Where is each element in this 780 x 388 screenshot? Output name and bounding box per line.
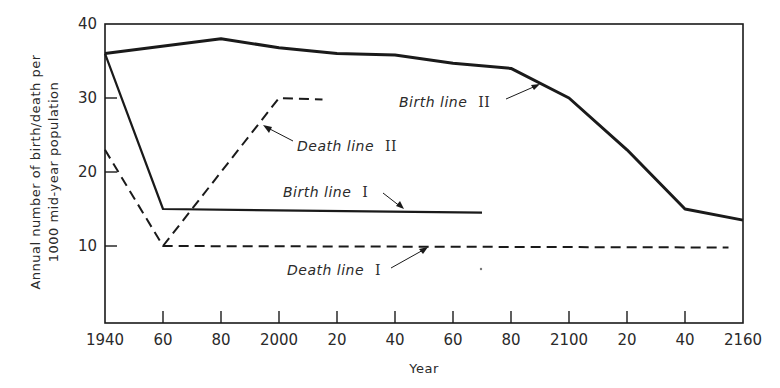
y-axis-title-line-2: 1000 mid-year population xyxy=(46,82,61,263)
x-tick-label: 20 xyxy=(617,331,636,349)
arrowhead-icon xyxy=(263,125,272,133)
y-axis-ticks: 10203040 xyxy=(78,15,117,255)
y-tick-label: 30 xyxy=(78,89,97,107)
x-tick-label: 60 xyxy=(153,331,172,349)
scan-speck xyxy=(480,268,482,270)
annotation-death-line-1: Death line I xyxy=(287,247,428,278)
series-death-line-ii xyxy=(163,98,323,246)
arrowhead-icon xyxy=(419,247,428,254)
y-tick-label: 10 xyxy=(78,237,97,255)
annotation-death-line-1-text: Death line I xyxy=(287,262,381,278)
arrowhead-icon xyxy=(396,201,404,209)
x-axis-title: Year xyxy=(408,361,439,376)
line-chart: 10203040 1940608020002040608021002040216… xyxy=(0,0,780,388)
series-death-line-i xyxy=(105,150,729,248)
annotation-birth-line-2: Birth line II xyxy=(399,84,540,110)
plot-frame xyxy=(105,24,743,323)
x-tick-label: 80 xyxy=(211,331,230,349)
x-tick-label: 80 xyxy=(501,331,520,349)
x-tick-label: 1940 xyxy=(86,331,124,349)
annotation-death-line-2-text: Death line II xyxy=(297,138,397,154)
arrow-line xyxy=(391,249,425,268)
series-lines xyxy=(105,39,743,248)
annotation-death-line-2: Death line II xyxy=(263,125,397,154)
y-tick-label: 40 xyxy=(78,15,97,33)
series-birth-line-ii xyxy=(105,39,743,220)
x-tick-label: 2100 xyxy=(550,331,588,349)
x-tick-label: 2160 xyxy=(724,331,762,349)
annotation-birth-line-1-text: Birth line I xyxy=(283,184,368,200)
y-axis-title-line-1: Annual number of birth/death per xyxy=(28,54,43,289)
x-tick-label: 40 xyxy=(385,331,404,349)
arrowhead-icon xyxy=(531,84,540,90)
x-tick-label: 20 xyxy=(327,331,346,349)
y-tick-label: 20 xyxy=(78,163,97,181)
x-tick-label: 60 xyxy=(443,331,462,349)
annotation-birth-line-2-text: Birth line II xyxy=(399,94,490,110)
x-tick-label: 2000 xyxy=(260,331,298,349)
x-axis-ticks: 19406080200020406080210020402160 xyxy=(86,311,762,349)
annotation-birth-line-1: Birth line I xyxy=(283,184,404,209)
y-axis-title: Annual number of birth/death per 1000 mi… xyxy=(28,54,61,289)
x-tick-label: 40 xyxy=(675,331,694,349)
